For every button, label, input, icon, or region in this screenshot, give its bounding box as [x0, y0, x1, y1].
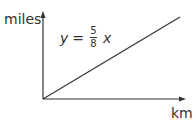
equals-sign: =	[72, 30, 84, 46]
x-axis-arrow-icon	[179, 97, 186, 102]
denominator: 8	[90, 39, 96, 49]
x-axis-label: km	[171, 106, 193, 120]
numerator: 5	[90, 26, 96, 36]
equation: y = 5 8 x	[60, 26, 111, 49]
equation-lhs: y	[60, 30, 68, 46]
equation-variable: x	[103, 30, 111, 46]
y-axis-label: miles	[4, 12, 41, 26]
fraction: 5 8	[90, 26, 97, 49]
